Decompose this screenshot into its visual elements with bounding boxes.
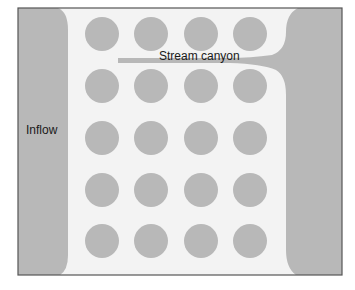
- obstacle: [134, 69, 168, 103]
- obstacle: [184, 69, 218, 103]
- obstacle: [233, 69, 267, 103]
- obstacle: [233, 224, 267, 258]
- inflow-region: [18, 8, 68, 275]
- obstacle: [85, 17, 119, 51]
- obstacle: [233, 173, 267, 207]
- obstacle: [184, 173, 218, 207]
- stream-canyon-label: Stream canyon: [159, 49, 240, 63]
- obstacle: [134, 173, 168, 207]
- obstacle: [184, 224, 218, 258]
- stream-canyon-diagram: Stream canyon Inflow: [0, 0, 355, 290]
- obstacle: [85, 224, 119, 258]
- obstacle: [85, 173, 119, 207]
- obstacle: [134, 224, 168, 258]
- obstacle: [85, 121, 119, 155]
- obstacle: [233, 17, 267, 51]
- obstacle: [134, 121, 168, 155]
- obstacle: [184, 17, 218, 51]
- obstacle: [134, 17, 168, 51]
- inflow-label: Inflow: [26, 123, 58, 137]
- obstacle: [233, 121, 267, 155]
- obstacle: [184, 121, 218, 155]
- obstacle: [85, 69, 119, 103]
